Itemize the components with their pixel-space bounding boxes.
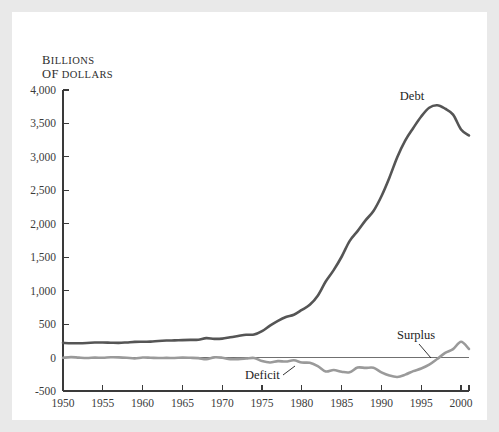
svg-text:1970: 1970	[211, 397, 234, 409]
svg-text:1980: 1980	[290, 397, 313, 409]
svg-text:1,500: 1,500	[30, 251, 56, 264]
svg-text:1,000: 1,000	[30, 285, 56, 298]
annotation-debt: Debt	[400, 89, 425, 103]
svg-text:2000: 2000	[450, 397, 473, 409]
svg-text:1965: 1965	[171, 397, 194, 409]
y-axis: -50005001,0001,5002,0002,5003,0003,5004,…	[30, 84, 69, 397]
x-axis: 1950195519601965197019751980198519901995…	[52, 385, 473, 409]
svg-text:2,500: 2,500	[30, 184, 56, 197]
series-debt	[63, 105, 469, 343]
chart-svg: BILLIONSOF DOLLARS -50005001,0001,5002,0…	[12, 12, 487, 420]
annotation-surplus: Surplus	[397, 328, 435, 342]
chart-annotations: DebtDeficitSurplus	[245, 89, 435, 382]
svg-text:1950: 1950	[52, 397, 75, 409]
svg-text:1955: 1955	[91, 397, 114, 409]
svg-text:1990: 1990	[370, 397, 393, 409]
leader-line-surplus	[419, 344, 431, 358]
svg-text:0: 0	[50, 352, 56, 364]
svg-text:3,500: 3,500	[30, 117, 56, 130]
svg-text:2,000: 2,000	[30, 218, 56, 231]
svg-text:1960: 1960	[131, 397, 154, 409]
svg-text:OF DOLLARS: OF DOLLARS	[42, 67, 113, 81]
chart-figure-panel: BILLIONSOF DOLLARS -50005001,0001,5002,0…	[12, 12, 487, 420]
svg-text:BILLIONS: BILLIONS	[42, 53, 94, 67]
leader-line-deficit	[283, 366, 295, 375]
annotation-deficit: Deficit	[245, 368, 280, 382]
y-axis-unit-title: BILLIONSOF DOLLARS	[42, 53, 113, 81]
svg-text:-500: -500	[35, 385, 56, 397]
svg-text:4,000: 4,000	[30, 84, 56, 97]
svg-text:1975: 1975	[251, 397, 274, 409]
svg-text:1995: 1995	[410, 397, 433, 409]
svg-text:3,000: 3,000	[30, 151, 56, 164]
svg-text:500: 500	[39, 318, 57, 330]
chart-plot-area: BILLIONSOF DOLLARS -50005001,0001,5002,0…	[12, 12, 487, 420]
svg-text:1985: 1985	[330, 397, 353, 409]
